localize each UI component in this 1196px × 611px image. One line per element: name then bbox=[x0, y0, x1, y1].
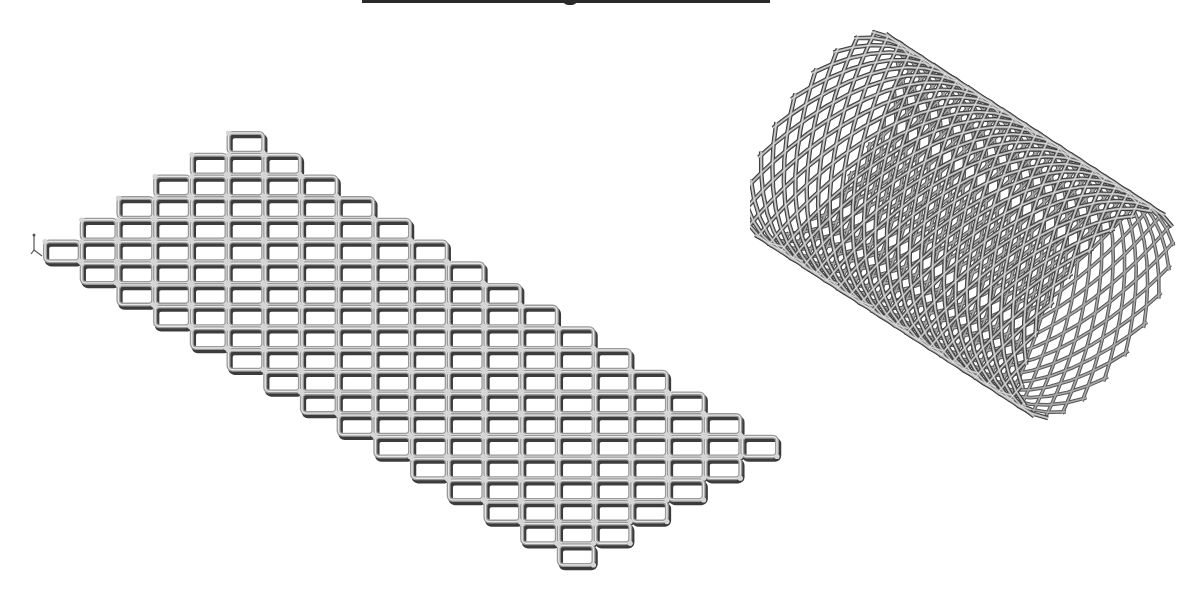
cylinder-lattice-graphic bbox=[750, 30, 1196, 430]
rolled-stent-cylinder: Rolled stent cylinder bbox=[750, 30, 1196, 430]
top-rule-marker bbox=[563, 0, 577, 5]
flat-lattice-graphic bbox=[0, 100, 800, 611]
flat-stent-pattern: Flat stent pattern bbox=[0, 100, 800, 611]
